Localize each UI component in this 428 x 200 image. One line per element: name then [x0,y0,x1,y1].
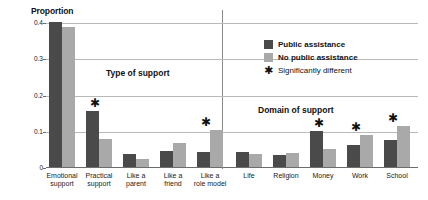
legend-item-public-assistance: Public assistance [264,38,358,50]
y-tick-label: 0.3 [34,55,43,62]
y-tick-mark [43,96,46,97]
legend-label-significantly-different: Significantly different [278,66,352,75]
y-tick-mark [43,23,46,24]
bar-public-assistance [236,152,249,167]
legend-swatch-dark-icon [264,40,273,49]
bar-group: ✱ [197,22,223,167]
bar-public-assistance [123,154,136,167]
legend-star-icon: ✱ [264,66,273,75]
bar-no-public-assistance [360,135,373,167]
legend-item-significantly-different: ✱ Significantly different [264,64,358,76]
x-tick-label-line: School [374,172,420,180]
bar-chart: Proportion 00.10.20.30.4✱✱✱✱✱ Type of su… [0,0,428,200]
y-tick-label: 0.4 [34,19,43,26]
bar-public-assistance [347,145,360,167]
bar-group [123,22,149,167]
significance-star-icon: ✱ [351,121,361,133]
y-tick-mark [43,168,46,169]
significance-star-icon: ✱ [314,117,324,129]
bar-no-public-assistance [62,27,75,167]
significance-star-icon: ✱ [201,116,211,128]
bar-public-assistance [160,151,173,167]
bar-group [236,22,262,167]
plot-area: 00.10.20.30.4✱✱✱✱✱ [46,23,418,168]
legend-item-no-public-assistance: No public assistance [264,51,358,63]
section-title-type-of-support: Type of support [106,68,170,78]
bar-group: ✱ [86,22,112,167]
chart-legend: Public assistance No public assistance ✱… [264,38,358,77]
bar-no-public-assistance [323,149,336,167]
bar-public-assistance [384,140,397,167]
bar-public-assistance [86,111,99,167]
bar-group [160,22,186,167]
x-tick-label-line: role model [187,180,233,188]
axis-baseline [46,167,418,168]
bar-public-assistance [310,131,323,167]
bar-no-public-assistance [210,130,223,167]
y-axis-label: Proportion [31,6,73,16]
bar-group: ✱ [384,22,410,167]
x-tick-label: School [374,172,420,180]
significance-star-icon: ✱ [90,97,100,109]
bar-no-public-assistance [99,139,112,167]
bar-public-assistance [273,155,286,167]
bar-no-public-assistance [136,159,149,167]
bar-public-assistance [49,22,62,167]
bar-no-public-assistance [173,143,186,167]
significance-star-icon: ✱ [388,112,398,124]
y-tick-mark [43,132,46,133]
y-tick-mark [43,59,46,60]
bar-group [49,22,75,167]
legend-swatch-light-icon [264,53,273,62]
bar-no-public-assistance [249,154,262,167]
legend-label-no-public-assistance: No public assistance [278,53,358,62]
y-tick-label: 0 [39,164,43,171]
bar-public-assistance [197,152,210,167]
bar-no-public-assistance [397,126,410,167]
y-tick-label: 0.2 [34,92,43,99]
legend-label-public-assistance: Public assistance [278,40,345,49]
y-tick-label: 0.1 [34,128,43,135]
section-title-domain-of-support: Domain of support [258,105,334,115]
bar-no-public-assistance [286,153,299,168]
